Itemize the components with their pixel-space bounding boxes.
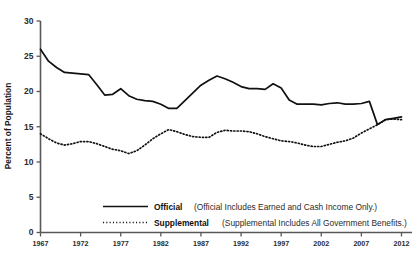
x-tick-label: 1967 — [33, 239, 49, 248]
y-tick-label: 0 — [29, 227, 34, 237]
x-tick-label: 2002 — [313, 239, 329, 248]
legend-label-official: Official — [154, 202, 182, 212]
y-axis-title: Percent of Population — [3, 83, 13, 170]
x-tick-label: 1992 — [233, 239, 249, 248]
x-tick-label: 1972 — [73, 239, 89, 248]
y-axis: 051015202530 Percent of Population — [3, 16, 41, 238]
x-tick-label: 2007 — [353, 239, 369, 248]
series-line-supplemental — [41, 119, 402, 154]
y-tick-label: 5 — [29, 192, 34, 202]
legend: Official (Official Includes Earned and C… — [103, 202, 407, 228]
y-tick-label: 15 — [24, 122, 34, 132]
x-tick-label: 2012 — [394, 239, 410, 248]
legend-description-supplemental: (Supplemental Includes All Government Be… — [222, 218, 407, 228]
line-chart: 051015202530 Percent of Population 19671… — [0, 0, 420, 259]
series-line-official — [41, 49, 402, 124]
y-tick-label: 25 — [24, 51, 34, 61]
x-tick-label: 1987 — [193, 239, 209, 248]
x-tick-label: 1982 — [153, 239, 169, 248]
x-tick-label: 1997 — [273, 239, 289, 248]
y-tick-label: 10 — [24, 157, 34, 167]
y-tick-label: 20 — [24, 86, 34, 96]
x-axis: 1967197219771982198719921997200220072012 — [33, 233, 413, 248]
chart-container: 051015202530 Percent of Population 19671… — [0, 0, 420, 259]
legend-label-supplemental: Supplemental — [154, 218, 209, 228]
x-tick-labels: 1967197219771982198719921997200220072012 — [33, 239, 410, 248]
y-tick-labels: 051015202530 — [24, 16, 34, 238]
legend-description-official: (Official Includes Earned and Cash Incom… — [194, 202, 377, 212]
plot-area — [41, 49, 402, 153]
x-tick-label: 1977 — [113, 239, 129, 248]
y-tick-label: 30 — [24, 16, 34, 26]
